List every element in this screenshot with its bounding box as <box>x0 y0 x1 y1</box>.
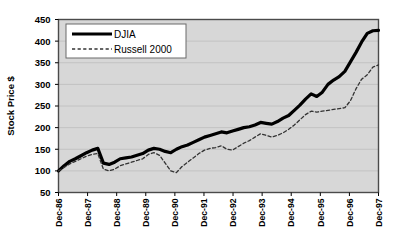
x-axis-tick-label: Dec-90 <box>170 198 180 226</box>
y-axis-tick-label: 200 <box>35 122 51 133</box>
stock-price-line-chart: 45040035030025020015010050 Dec-86Dec-87D… <box>0 0 395 246</box>
x-axis-tick-label: Dec-95 <box>316 198 326 226</box>
x-axis-tick-label: Dec-96 <box>345 198 355 226</box>
legend-label-djia: DJIA <box>114 29 136 40</box>
y-axis-tick-label: 150 <box>35 144 51 155</box>
y-axis-tick-label: 50 <box>40 187 51 198</box>
x-axis-tick-label: Dec-91 <box>199 198 209 226</box>
x-axis-tick-label: Dec-94 <box>286 198 296 226</box>
legend-label-russell-2000: Russell 2000 <box>114 44 172 55</box>
y-axis-tick-label: 350 <box>35 57 51 68</box>
y-axis-tick-label: 400 <box>35 36 51 47</box>
x-axis-tick-label: Dec-97 <box>374 198 384 226</box>
y-axis-title: Stock Price $ <box>5 75 16 135</box>
x-axis-tick-label: Dec-87 <box>83 198 93 226</box>
chart-canvas: 45040035030025020015010050 Dec-86Dec-87D… <box>0 0 395 246</box>
x-axis-tick-label: Dec-93 <box>257 198 267 226</box>
x-axis-tick-label: Dec-88 <box>112 198 122 226</box>
chart-legend: DJIARussell 2000 <box>66 24 186 58</box>
x-axis-tick-label: Dec-86 <box>54 198 64 226</box>
y-axis-tick-label: 100 <box>35 165 51 176</box>
x-axis-tick-label: Dec-89 <box>141 198 151 226</box>
y-axis-tick-label: 450 <box>35 14 51 25</box>
y-axis-tick-labels: 45040035030025020015010050 <box>35 14 51 198</box>
y-axis-tick-label: 250 <box>35 100 51 111</box>
y-axis-tick-label: 300 <box>35 79 51 90</box>
x-axis-tick-label: Dec-92 <box>228 198 238 226</box>
